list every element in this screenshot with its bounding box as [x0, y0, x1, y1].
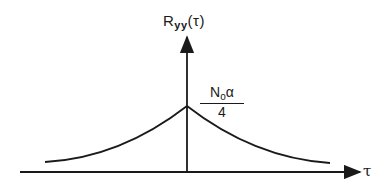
y-axis-label: Ryy(τ) — [163, 12, 205, 31]
x-axis-label: τ — [363, 162, 371, 180]
peak-value-label: Noα 4 — [200, 84, 244, 120]
left-decay-curve — [45, 106, 187, 162]
